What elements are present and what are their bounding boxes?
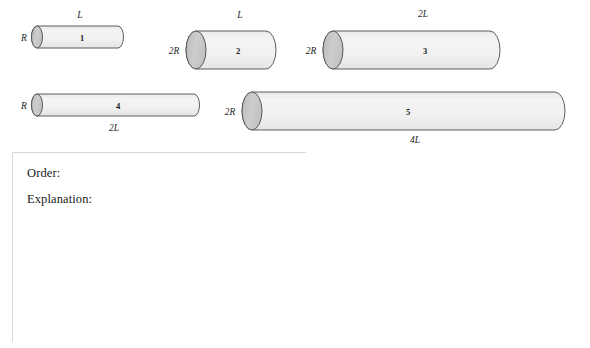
cylinder-5-length-label: 4L xyxy=(410,135,420,145)
cylinder-3-cap xyxy=(323,31,343,69)
order-prompt-label: Order: xyxy=(27,167,60,180)
cylinder-1-number: 1 xyxy=(80,33,84,43)
cylinder-3-length-label: 2L xyxy=(418,9,428,19)
cylinder-2-radius-label: 2R xyxy=(169,46,180,56)
cylinder-4-length-label: 2L xyxy=(109,123,119,133)
cylinder-1-cap xyxy=(32,26,43,48)
cylinder-5-radius-label: 2R xyxy=(225,107,236,117)
cylinder-2: 2R L 2 xyxy=(169,10,276,69)
cylinder-1-body xyxy=(32,26,124,48)
cylinder-figure: R L 1 2R L 2 2R 2L 3 R 4 2L xyxy=(0,0,590,148)
cylinder-2-number: 2 xyxy=(236,46,240,56)
cylinder-diagram: R L 1 2R L 2 2R 2L 3 R 4 2L xyxy=(0,0,590,148)
cylinder-1-radius-label: R xyxy=(20,33,27,43)
cylinder-5-cap xyxy=(242,92,262,130)
cylinder-1-length-label: L xyxy=(76,10,82,20)
cylinder-3: 2R 2L 3 xyxy=(306,9,500,69)
cylinder-3-radius-label: 2R xyxy=(306,46,317,56)
cylinder-4-cap xyxy=(32,94,43,116)
cylinder-3-body xyxy=(323,31,500,69)
explanation-prompt-label: Explanation: xyxy=(27,193,92,206)
cylinder-5: 2R 5 4L xyxy=(225,92,565,145)
cylinder-1: R L 1 xyxy=(20,10,123,48)
cylinder-4: R 4 2L xyxy=(20,94,199,133)
answer-block: Order: Explanation: xyxy=(12,152,578,342)
cylinder-5-body xyxy=(242,92,565,130)
cylinder-2-cap xyxy=(186,31,206,69)
cylinder-3-number: 3 xyxy=(423,46,427,56)
cylinder-2-length-label: L xyxy=(236,10,242,20)
cylinder-4-radius-label: R xyxy=(20,101,27,111)
cylinder-5-number: 5 xyxy=(406,107,410,117)
